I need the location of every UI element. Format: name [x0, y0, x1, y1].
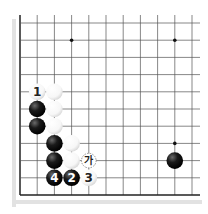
star-point-icon: [70, 38, 74, 42]
star-point-icon: [173, 142, 177, 146]
black-stone-icon: [29, 101, 46, 118]
white-stone-3: 3: [81, 170, 98, 187]
stone-move-number: 1: [33, 85, 41, 99]
marker-label: 가: [84, 154, 94, 166]
white-stone-icon: [46, 84, 63, 101]
black-stone-icon: [46, 135, 63, 152]
white-stone: [46, 84, 63, 101]
stone-move-number: 4: [50, 171, 58, 185]
black-stone: [46, 135, 63, 152]
white-stone-icon: [46, 101, 63, 118]
black-stone-4: 4: [46, 170, 63, 187]
black-stone-icon: [29, 118, 46, 135]
black-stone-icon: [167, 152, 184, 169]
white-stone-1: 1: [29, 84, 46, 101]
black-stone: [167, 152, 184, 169]
go-board-diagram: 1423 가: [0, 0, 208, 214]
bottom-shadow: [12, 200, 202, 204]
stone-move-number: 3: [85, 171, 93, 185]
black-stone-icon: [46, 152, 63, 169]
white-stone-icon: [63, 135, 80, 152]
black-stone: [29, 101, 46, 118]
black-stone: [29, 118, 46, 135]
star-point-icon: [173, 38, 177, 42]
left-shadow: [12, 19, 16, 207]
white-stone: [46, 101, 63, 118]
white-stone: [63, 135, 80, 152]
marker-ga: 가: [82, 153, 97, 168]
black-stone-2: 2: [63, 170, 80, 187]
stone-move-number: 2: [67, 171, 75, 185]
white-stone: [46, 118, 63, 135]
white-stone-icon: [46, 118, 63, 135]
markers: 가: [82, 153, 97, 168]
white-stone: [63, 152, 80, 169]
black-stone: [46, 152, 63, 169]
white-stone-icon: [63, 152, 80, 169]
